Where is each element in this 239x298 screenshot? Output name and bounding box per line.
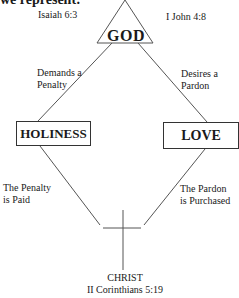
penalty-paid-label: The Penalty is Paid xyxy=(3,182,51,206)
label-line: Desires a xyxy=(181,68,218,80)
pardon-purchased-label: The Pardon is Purchased xyxy=(180,183,230,207)
love-box: LOVE xyxy=(163,122,239,149)
left-reference: Isaiah 6:3 xyxy=(38,9,77,20)
label-line: is Purchased xyxy=(180,195,230,207)
cross-icon xyxy=(103,210,141,270)
demands-penalty-label: Demands a Penalty xyxy=(37,67,82,91)
desires-pardon-label: Desires a Pardon xyxy=(181,68,218,92)
right-reference: I John 4:8 xyxy=(166,11,206,22)
label-line: The Penalty xyxy=(3,182,51,194)
header-text: we represent: xyxy=(0,0,81,8)
christ-reference: II Corinthians 5:19 xyxy=(80,284,170,296)
holiness-box: HOLINESS xyxy=(16,121,91,146)
label-line: is Paid xyxy=(3,194,51,206)
label-line: Pardon xyxy=(181,80,218,92)
christ-label: CHRIST II Corinthians 5:19 xyxy=(80,272,170,296)
label-line: Penalty xyxy=(37,79,82,91)
christ-title: CHRIST xyxy=(80,272,170,284)
label-line: Demands a xyxy=(37,67,82,79)
label-line: The Pardon xyxy=(180,183,230,195)
god-label: GOD xyxy=(105,27,147,45)
